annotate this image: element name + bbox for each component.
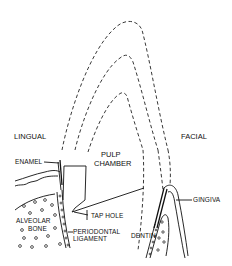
gingiva-facial-inner <box>168 192 185 258</box>
gingiva-lingual-inner <box>15 176 58 186</box>
label-lingual: LINGUAL <box>14 132 46 141</box>
label-facial: FACIAL <box>181 132 207 141</box>
label-bone: BONE <box>28 225 47 232</box>
periodontal-ligament-facial-2 <box>150 226 159 258</box>
label-alveolar: ALVEOLAR <box>16 217 51 224</box>
label-enamel: ENAMEL <box>15 158 43 165</box>
label-periodontal: PERIODONTAL <box>73 228 120 235</box>
label-gingiva: GINGIVA <box>193 196 221 203</box>
tap-hole-pointer <box>74 212 88 215</box>
root-dashed-facial <box>158 150 163 190</box>
label-tap-hole: TAP HOLE <box>91 212 124 219</box>
tooth-cross-section-diagram: LINGUAL FACIAL ENAMEL PULP CHAMBER ALVEO… <box>0 0 232 266</box>
label-pulp: PULP <box>101 150 121 159</box>
tap-hole-line <box>72 188 144 212</box>
access-cavity-left <box>63 166 64 200</box>
label-ligament: LIGAMENT <box>73 235 107 242</box>
label-chamber: CHAMBER <box>94 159 132 168</box>
access-cavity <box>64 166 86 212</box>
alveolar-crest-lingual <box>15 194 55 210</box>
pulp-outline <box>88 93 143 152</box>
label-dentin: DENTIN <box>131 232 156 239</box>
enamel-leader <box>44 162 59 163</box>
root-dashed-facial-outer <box>168 150 170 185</box>
alveolar-bone-facial <box>159 215 169 256</box>
